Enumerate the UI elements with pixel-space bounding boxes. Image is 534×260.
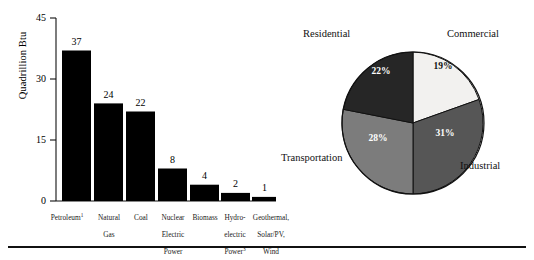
pie-label-residential: Residential (303, 28, 350, 39)
y-tick-label-30: 30 (24, 74, 46, 84)
bar-nuclear (158, 169, 187, 202)
pie-label-transportation: Transportation (281, 152, 342, 163)
bar-value-geothermal: 1 (250, 183, 279, 193)
pie-label-commercial: Commercial (447, 28, 499, 39)
bar-chart: Quadrillion Btu 45 30 15 0 37 24 22 8 4 … (0, 0, 290, 245)
bottom-horizontal-rule (8, 246, 526, 248)
bar-value-nuclear: 8 (158, 155, 187, 165)
bar-natural-gas (94, 103, 123, 201)
x-tick-line-2: Electric (147, 231, 199, 240)
bar-value-coal: 22 (126, 98, 155, 108)
bar-value-hydro: 2 (221, 179, 250, 189)
x-tick-line-3: Wind (243, 248, 299, 257)
x-tick-line-1: Petroleum (51, 213, 81, 222)
bar-value-biomass: 4 (190, 171, 219, 181)
y-tick-label-15: 15 (24, 135, 46, 145)
bar-petroleum (62, 51, 91, 202)
pie-pct-commercial: 19% (426, 61, 460, 71)
pie-label-industrial: Industrial (460, 160, 500, 171)
bar-geothermal (252, 197, 276, 201)
bar-value-natural-gas: 24 (94, 90, 123, 100)
y-tick-label-45: 45 (24, 13, 46, 23)
y-axis-title: Quadrillion Btu (17, 6, 28, 126)
bar-value-petroleum: 37 (62, 37, 91, 47)
pie-pct-transportation: 28% (361, 133, 395, 143)
pie-pct-residential: 22% (364, 66, 398, 76)
bar-hydro (221, 193, 250, 201)
figure-container: Quadrillion Btu 45 30 15 0 37 24 22 8 4 … (0, 0, 534, 260)
pie-chart: 19% 31% 28% 22% Commercial Industrial Tr… (290, 0, 534, 245)
bar-coal (126, 112, 155, 202)
bar-biomass (190, 185, 219, 201)
pie-pct-industrial: 31% (428, 128, 462, 138)
x-tick-line-2: Gas (82, 231, 136, 240)
pie-slice-transportation (342, 109, 413, 194)
x-tick-line-3: Power (147, 248, 199, 257)
